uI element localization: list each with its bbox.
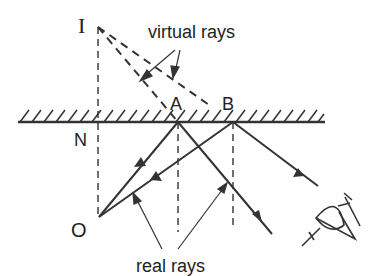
label-virtual-rays: virtual rays: [148, 22, 235, 42]
label-image-point-i: I: [78, 13, 85, 38]
label-point-a: A: [170, 94, 182, 114]
real-rays: [99, 122, 318, 234]
real-rays-pointers: [133, 183, 227, 249]
label-point-b: B: [222, 94, 234, 114]
label-object-point-o: O: [71, 219, 87, 241]
label-normal-point-n: N: [74, 130, 87, 150]
mirror-reflection-diagram: I virtual rays A B N O real rays: [0, 0, 376, 276]
label-real-rays: real rays: [136, 256, 205, 276]
virtual-rays-pointers: [140, 50, 180, 81]
eye-icon: [302, 193, 360, 246]
